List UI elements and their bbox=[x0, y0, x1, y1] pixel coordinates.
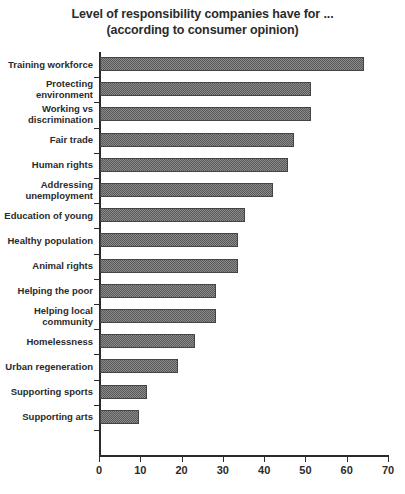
category-tick bbox=[94, 354, 99, 355]
category-label: Human rights bbox=[0, 159, 93, 170]
bar-row bbox=[99, 128, 388, 153]
bar bbox=[100, 208, 245, 222]
bar-row bbox=[99, 279, 388, 304]
category-label: Animal rights bbox=[0, 260, 93, 271]
bar-row bbox=[99, 203, 388, 228]
bar-row bbox=[99, 52, 388, 77]
x-axis-tick bbox=[99, 456, 100, 462]
category-label-line: unemployment bbox=[0, 190, 93, 201]
x-axis-label: 50 bbox=[285, 464, 325, 476]
category-tick bbox=[94, 380, 99, 381]
x-axis-tick bbox=[182, 456, 183, 462]
category-label-line: Training workforce bbox=[0, 59, 93, 70]
category-label: Working vsdiscrimination bbox=[0, 103, 93, 125]
bar-row bbox=[99, 228, 388, 253]
category-tick bbox=[94, 430, 99, 431]
category-label: Fair trade bbox=[0, 134, 93, 145]
bar bbox=[100, 158, 288, 172]
bar-row bbox=[99, 254, 388, 279]
bar bbox=[100, 284, 216, 298]
bar bbox=[100, 233, 238, 247]
category-label-line: Urban regeneration bbox=[0, 361, 93, 372]
bar bbox=[100, 82, 311, 96]
x-axis-label: 30 bbox=[203, 464, 243, 476]
bar bbox=[100, 259, 238, 273]
category-label: Helping localcommunity bbox=[0, 305, 93, 327]
category-tick bbox=[94, 254, 99, 255]
chart-title: Level of responsibility companies have f… bbox=[0, 6, 405, 38]
category-tick bbox=[94, 279, 99, 280]
bar bbox=[100, 385, 147, 399]
bar bbox=[100, 309, 216, 323]
bar-row bbox=[99, 77, 388, 102]
category-tick bbox=[94, 203, 99, 204]
category-label-line: discrimination bbox=[0, 114, 93, 125]
category-label-line: Animal rights bbox=[0, 260, 93, 271]
category-label-line: Supporting sports bbox=[0, 386, 93, 397]
category-label-line: Protecting bbox=[0, 78, 93, 89]
category-label-line: Supporting arts bbox=[0, 411, 93, 422]
x-axis-label: 20 bbox=[162, 464, 202, 476]
category-label-line: Helping local bbox=[0, 305, 93, 316]
category-label-line: environment bbox=[0, 89, 93, 100]
category-label: Addressingunemployment bbox=[0, 179, 93, 201]
bar bbox=[100, 183, 273, 197]
category-label: Helping the poor bbox=[0, 285, 93, 296]
category-label-line: Working vs bbox=[0, 103, 93, 114]
x-axis-tick bbox=[347, 456, 348, 462]
category-label: Homelessness bbox=[0, 336, 93, 347]
category-tick bbox=[94, 153, 99, 154]
x-axis-label: 40 bbox=[244, 464, 284, 476]
x-axis-tick bbox=[140, 456, 141, 462]
category-label: Training workforce bbox=[0, 59, 93, 70]
bar-row bbox=[99, 102, 388, 127]
category-label-line: Helping the poor bbox=[0, 285, 93, 296]
category-tick bbox=[94, 128, 99, 129]
category-label: Urban regeneration bbox=[0, 361, 93, 372]
bar bbox=[100, 107, 311, 121]
category-label: Education of young bbox=[0, 210, 93, 221]
bar-row bbox=[99, 329, 388, 354]
bar bbox=[100, 410, 139, 424]
x-axis-label: 70 bbox=[368, 464, 405, 476]
x-axis-line bbox=[99, 455, 389, 457]
x-axis-tick bbox=[223, 456, 224, 462]
category-label-line: community bbox=[0, 316, 93, 327]
category-label: Protectingenvironment bbox=[0, 78, 93, 100]
bar bbox=[100, 359, 178, 373]
bar-row bbox=[99, 354, 388, 379]
category-tick bbox=[94, 102, 99, 103]
category-label: Supporting sports bbox=[0, 386, 93, 397]
category-tick bbox=[94, 304, 99, 305]
category-tick bbox=[94, 77, 99, 78]
category-label: Supporting arts bbox=[0, 411, 93, 422]
bar-row bbox=[99, 405, 388, 430]
chart-title-line-2: (according to consumer opinion) bbox=[0, 22, 405, 38]
category-label-line: Homelessness bbox=[0, 336, 93, 347]
chart-title-line-1: Level of responsibility companies have f… bbox=[0, 6, 405, 22]
x-axis-tick bbox=[305, 456, 306, 462]
bar-row bbox=[99, 380, 388, 405]
bar-row bbox=[99, 178, 388, 203]
category-label-line: Human rights bbox=[0, 159, 93, 170]
x-axis-label: 60 bbox=[327, 464, 367, 476]
bar bbox=[100, 57, 364, 71]
category-tick bbox=[94, 228, 99, 229]
x-axis-label: 10 bbox=[120, 464, 160, 476]
category-tick bbox=[94, 329, 99, 330]
x-axis-tick bbox=[264, 456, 265, 462]
x-axis-label: 0 bbox=[79, 464, 119, 476]
bar bbox=[100, 334, 195, 348]
category-label-line: Healthy population bbox=[0, 235, 93, 246]
bar-row bbox=[99, 304, 388, 329]
category-tick bbox=[94, 405, 99, 406]
category-label: Healthy population bbox=[0, 235, 93, 246]
bar-row bbox=[99, 153, 388, 178]
x-axis-tick bbox=[388, 456, 389, 462]
category-label-line: Education of young bbox=[0, 210, 93, 221]
bar bbox=[100, 133, 294, 147]
category-label-line: Addressing bbox=[0, 179, 93, 190]
category-label-line: Fair trade bbox=[0, 134, 93, 145]
category-tick bbox=[94, 178, 99, 179]
